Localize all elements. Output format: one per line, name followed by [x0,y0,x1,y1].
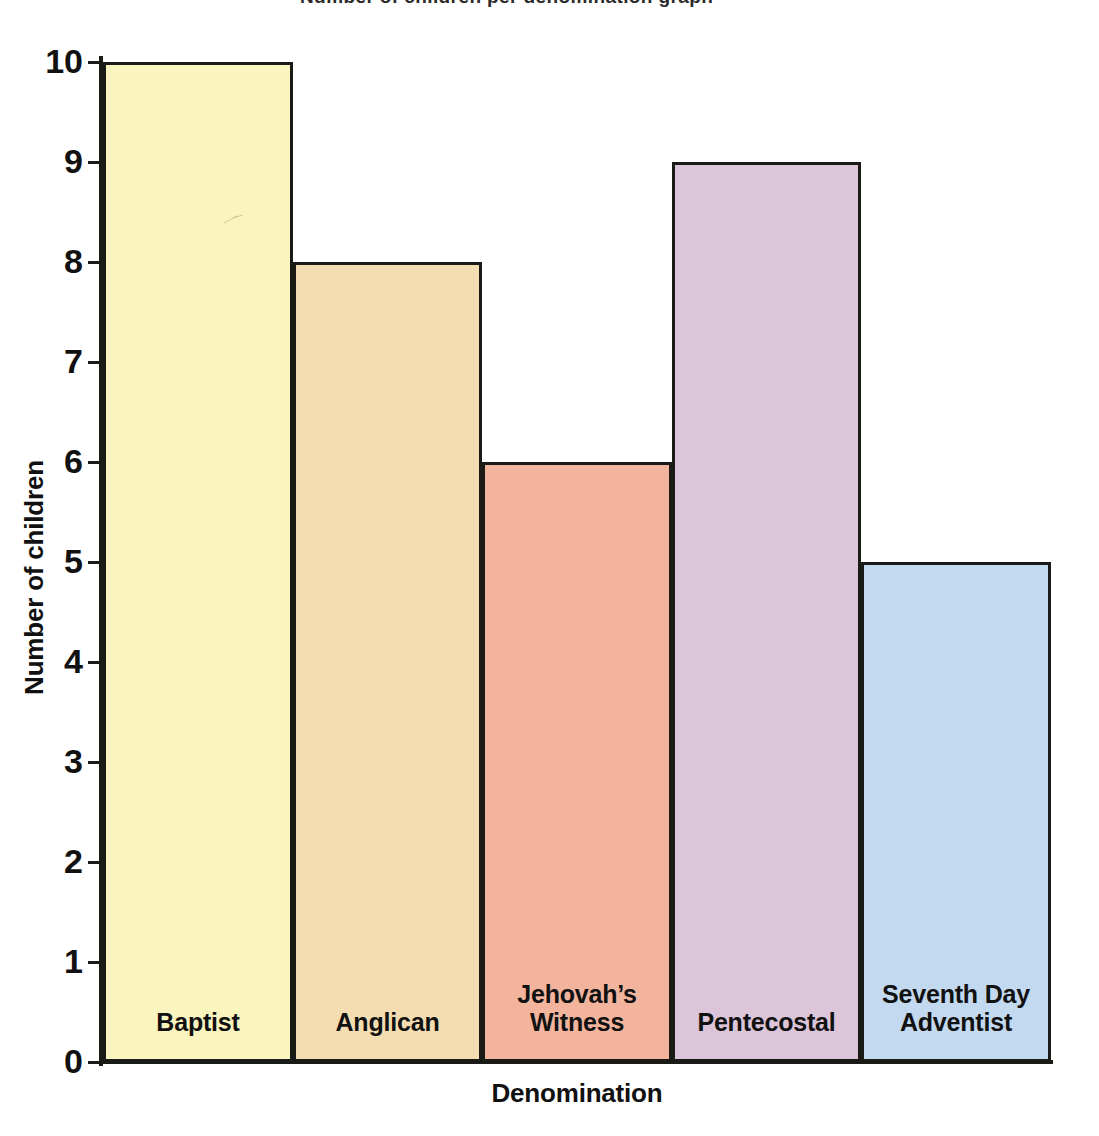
y-axis-tick-label: 10 [0,44,83,78]
bar[interactable]: Seventh Day Adventist [861,562,1051,1062]
cropped-header-text: Number of children per denomination grap… [0,0,1099,14]
bar-category-label: Pentecostal [697,1008,835,1059]
bar-category-label: Anglican [336,1008,440,1059]
bar-category-label: Jehovah’s Witness [517,980,637,1060]
y-axis-tick [88,361,102,364]
bar[interactable]: Jehovah’s Witness [482,462,672,1062]
bar[interactable]: Anglican [293,262,482,1062]
y-axis-tick [88,561,102,564]
chart-page: Number of children per denomination grap… [0,0,1099,1136]
y-axis-tick [88,61,102,64]
y-axis-tick-label: 0 [0,1044,83,1078]
bar-category-label: Baptist [156,1008,239,1059]
y-axis-tick [88,861,102,864]
y-axis-tick [88,761,102,764]
y-axis-tick [88,661,102,664]
cropped-header-label: Number of children per denomination grap… [300,0,713,8]
bar[interactable]: Pentecostal [672,162,861,1062]
plot-area: BaptistAnglicanJehovah’s WitnessPentecos… [103,62,1051,1062]
bar-category-label: Seventh Day Adventist [882,980,1030,1060]
y-axis-tick-label: 1 [0,944,83,978]
y-axis-tick [88,161,102,164]
y-axis-tick-label: 9 [0,144,83,178]
x-axis-title: Denomination [103,1078,1051,1109]
y-axis-tick [88,461,102,464]
y-axis-tick [88,961,102,964]
y-axis-tick-label: 8 [0,244,83,278]
y-axis-tick [88,261,102,264]
y-axis-title: Number of children [19,298,50,858]
y-axis-tick [88,1061,102,1064]
bar[interactable]: Baptist [103,62,293,1062]
